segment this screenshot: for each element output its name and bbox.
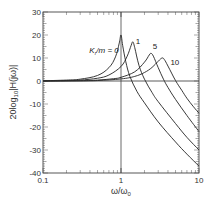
chart-canvas: 3020100-10-20-30-40 0.1110 Kr/m = 01510 … xyxy=(0,0,209,205)
y-tick-label: 10 xyxy=(32,54,41,63)
x-tick-labels: 0.1110 xyxy=(37,176,204,185)
y-tick-label: -10 xyxy=(29,100,41,109)
curve-label: 5 xyxy=(153,42,158,51)
y-tick-label: 20 xyxy=(32,31,41,40)
y-tick-label: 30 xyxy=(32,8,41,17)
x-tick-label: 10 xyxy=(195,176,204,185)
y-tick-label: 0 xyxy=(37,77,42,86)
x-axis-title: ω/ω0 xyxy=(111,186,132,197)
curve-label: Kr/m = 0 xyxy=(89,46,119,56)
y-tick-label: -20 xyxy=(29,123,41,132)
curve-label: 10 xyxy=(170,58,179,67)
x-axis-title-omega: ω/ω xyxy=(111,186,128,196)
y-tick-label: -30 xyxy=(29,146,41,155)
curve-label: 1 xyxy=(136,37,141,46)
x-tick-label: 1 xyxy=(119,176,124,185)
x-axis-title-subscript: 0 xyxy=(128,191,132,197)
x-tick-label: 0.1 xyxy=(37,176,49,185)
y-axis-title-text: 20log10|H(jω)| xyxy=(8,65,19,120)
y-axis-title: 20log10|H(jω)| xyxy=(8,65,19,120)
y-tick-labels: 3020100-10-20-30-40 xyxy=(29,8,41,178)
